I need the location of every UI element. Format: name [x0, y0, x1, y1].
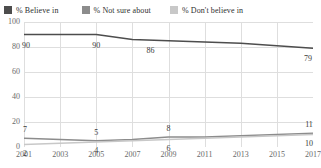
y-axis-tick-label: 80 — [12, 43, 20, 51]
data-point-label: 90 — [92, 42, 100, 50]
y-axis-tick-label: 100 — [8, 18, 20, 26]
y-axis-tick-label: 40 — [12, 93, 20, 101]
chart-legend: % Believe in% Not sure about% Don't beli… — [0, 0, 321, 20]
data-point-label: 8 — [167, 125, 171, 133]
data-point-label: 5 — [94, 129, 98, 137]
data-point-label: 4 — [94, 147, 98, 155]
x-axis-tick-label: 2007 — [124, 151, 140, 159]
x-axis-tick-label: 2015 — [269, 151, 285, 159]
y-axis-tick-label: 60 — [12, 68, 20, 76]
x-axis-tick-label: 2013 — [233, 151, 249, 159]
legend-item-label: % Not sure about — [94, 6, 151, 15]
legend-item-label: % Believe in — [16, 6, 59, 15]
y-axis-tick-label: 20 — [12, 118, 20, 126]
legend-swatch-icon — [4, 6, 12, 14]
legend-swatch-icon — [82, 6, 90, 14]
legend-item-2[interactable]: % Don't believe in — [170, 0, 243, 20]
series-line-0 — [24, 35, 313, 49]
legend-item-label: % Don't believe in — [182, 6, 243, 15]
data-point-label: 10 — [305, 140, 313, 148]
legend-item-1[interactable]: % Not sure about — [82, 0, 151, 20]
data-point-label: 11 — [305, 121, 313, 129]
chart-container: % Believe in% Not sure about% Don't beli… — [0, 0, 321, 168]
data-point-label: 6 — [167, 145, 171, 153]
plot-area: 0204060801002001200320052007200920112013… — [24, 22, 313, 147]
data-point-label: 86 — [146, 47, 154, 55]
legend-swatch-icon — [170, 6, 178, 14]
data-point-label: 79 — [304, 55, 312, 63]
x-axis-tick-label: 2017 — [305, 151, 321, 159]
data-point-label: 90 — [22, 42, 30, 50]
x-axis-tick-label: 2003 — [52, 151, 68, 159]
x-axis-tick-label: 2011 — [197, 151, 213, 159]
data-point-label: 7 — [23, 126, 27, 134]
data-point-label: 2 — [23, 150, 27, 158]
